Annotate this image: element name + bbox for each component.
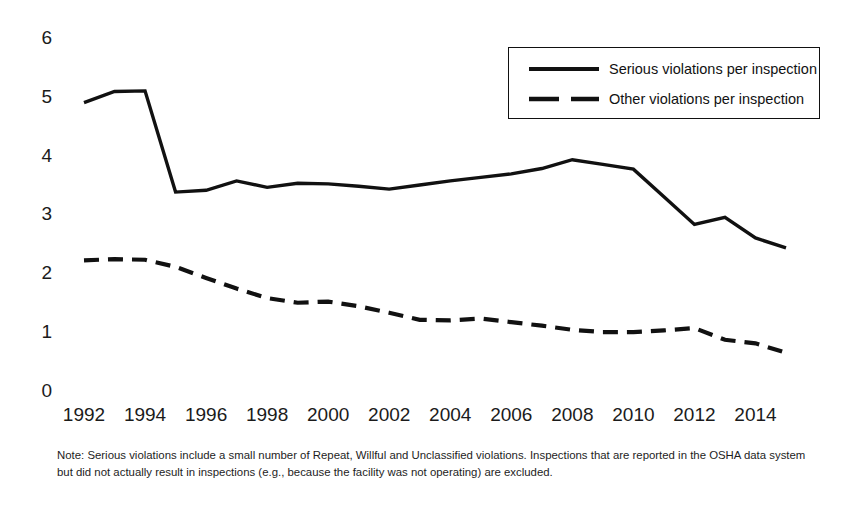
series-line-other-violations: [84, 259, 786, 353]
chart-figure: 0123456 19921994199619982000200220042006…: [0, 0, 853, 514]
y-axis-tick-2: 2: [22, 263, 52, 282]
y-axis-tick-1: 1: [22, 322, 52, 341]
x-axis-tick-2014: 2014: [720, 405, 790, 424]
x-axis-tick-2010: 2010: [598, 405, 668, 424]
x-axis-tick-2012: 2012: [659, 405, 729, 424]
x-axis-tick-1998: 1998: [232, 405, 302, 424]
legend-swatch-solid-line-icon: [527, 62, 601, 76]
x-axis-tick-2002: 2002: [354, 405, 424, 424]
x-axis-tick-1992: 1992: [49, 405, 119, 424]
legend-entry-serious-violations: Serious violations per inspection: [509, 54, 819, 84]
x-axis-tick-1994: 1994: [110, 405, 180, 424]
legend-entry-other-violations: Other violations per inspection: [509, 84, 819, 114]
y-axis-tick-4: 4: [22, 146, 52, 165]
y-axis-tick-0: 0: [22, 381, 52, 400]
chart-legend: Serious violations per inspection Other …: [508, 47, 820, 119]
x-axis-tick-1996: 1996: [171, 405, 241, 424]
x-axis-tick-2006: 2006: [476, 405, 546, 424]
legend-label-other-violations: Other violations per inspection: [609, 91, 804, 107]
legend-swatch-dashed-line-icon: [527, 92, 601, 106]
y-axis-tick-3: 3: [22, 204, 52, 223]
x-axis-tick-2008: 2008: [537, 405, 607, 424]
x-axis-tick-2004: 2004: [415, 405, 485, 424]
y-axis-tick-5: 5: [22, 87, 52, 106]
chart-note: Note: Serious violations include a small…: [57, 447, 817, 481]
legend-label-serious-violations: Serious violations per inspection: [609, 61, 817, 77]
x-axis-tick-2000: 2000: [293, 405, 363, 424]
y-axis-tick-6: 6: [22, 28, 52, 47]
